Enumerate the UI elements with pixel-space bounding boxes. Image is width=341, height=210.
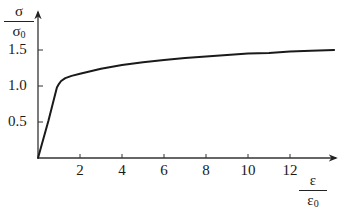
stress-strain-chart <box>0 0 341 210</box>
y-axis-label: σ σ0 <box>4 4 34 40</box>
y-label-denominator: σ0 <box>4 22 34 40</box>
x-tick-label: 6 <box>160 163 168 178</box>
x-tick-label: 10 <box>241 163 256 178</box>
x-label-numerator: ε <box>299 173 327 190</box>
x-tick-label: 2 <box>76 163 84 178</box>
y-tick-label: 1.5 <box>8 42 27 57</box>
x-tick-label: 4 <box>118 163 126 178</box>
y-axis-ticks <box>38 50 43 122</box>
y-label-numerator: σ <box>4 4 34 21</box>
stress-strain-curve <box>38 50 334 158</box>
y-tick-label: 1.0 <box>8 78 27 93</box>
x-axis-label: ε ε0 <box>299 173 327 209</box>
y-tick-label: 0.5 <box>8 114 27 129</box>
x-tick-label: 12 <box>283 163 298 178</box>
x-tick-label: 8 <box>202 163 210 178</box>
x-label-denominator: ε0 <box>299 191 327 209</box>
